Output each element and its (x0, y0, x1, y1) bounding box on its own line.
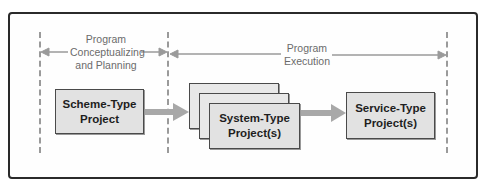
service-type-project-box: Service-Type Project(s) (346, 92, 435, 139)
execution-label-line-2: Execution (282, 55, 332, 68)
planning-label-line-2: Conceptualizing (70, 46, 142, 59)
scheme-label-line-1: Scheme-Type (63, 97, 137, 112)
flow-arrow-scheme-to-system (143, 103, 189, 121)
execution-label-line-1: Program (282, 42, 332, 55)
planning-label-line-1: Program (70, 33, 142, 46)
system-type-project-box: System-Type Project(s) (209, 103, 300, 149)
flow-arrow-system-to-service (300, 104, 346, 122)
scheme-label-line-2: Project (80, 112, 119, 127)
system-label-line-1: System-Type (219, 111, 290, 126)
scheme-type-project-box: Scheme-Type Project (55, 89, 144, 134)
planning-phase-label: Program Conceptualizing and Planning (70, 33, 142, 72)
service-label-line-2: Project(s) (364, 116, 417, 131)
service-label-line-1: Service-Type (355, 101, 426, 116)
execution-phase-label: Program Execution (282, 42, 332, 68)
system-label-line-2: Project(s) (228, 126, 281, 141)
planning-label-line-3: and Planning (70, 59, 142, 72)
